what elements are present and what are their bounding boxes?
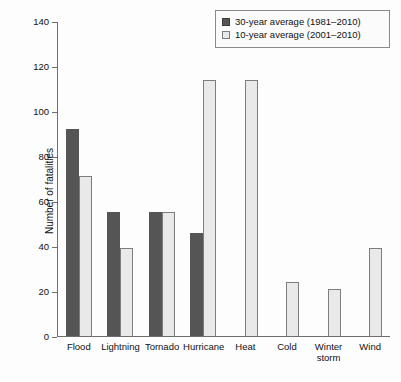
bar-light[interactable] (286, 282, 299, 336)
bar-group (141, 22, 183, 336)
bar-light[interactable] (203, 80, 216, 337)
bar-group (349, 22, 391, 336)
bar-group (224, 22, 266, 336)
bar-light[interactable] (328, 289, 341, 336)
bar-light[interactable] (369, 248, 382, 336)
bar-group (307, 22, 349, 336)
y-tick-mark (52, 337, 57, 338)
y-tick-mark (52, 67, 57, 68)
y-tick-mark (52, 112, 57, 113)
x-axis-label: Lightning (100, 341, 142, 363)
bar-dark[interactable] (66, 129, 79, 336)
x-axis-label: Winter storm (308, 341, 350, 363)
bar-dark[interactable] (190, 233, 203, 337)
bar-dark[interactable] (107, 212, 120, 336)
bar-light[interactable] (120, 248, 133, 336)
y-tick-label: 100 (33, 107, 49, 117)
y-tick-label: 0 (44, 332, 49, 342)
y-tick-mark (52, 157, 57, 158)
y-tick-label: 40 (38, 242, 49, 252)
bar-dark[interactable] (149, 212, 162, 336)
x-axis-label: Cold (266, 341, 308, 363)
y-tick-label: 60 (38, 197, 49, 207)
y-tick-mark (52, 22, 57, 23)
bar-light[interactable] (162, 212, 175, 336)
x-axis-label: Flood (58, 341, 100, 363)
bar-light[interactable] (245, 80, 258, 337)
y-tick-label: 80 (38, 152, 49, 162)
y-tick-mark (52, 247, 57, 248)
y-tick-mark (52, 202, 57, 203)
x-axis-label: Tornado (141, 341, 183, 363)
y-tick-label: 20 (38, 287, 49, 297)
x-axis-labels: FloodLightningTornadoHurricaneHeatColdWi… (58, 341, 391, 363)
fatalities-bar-chart: 30-year average (1981–2010) 10-year aver… (0, 0, 401, 382)
x-axis-label: Heat (225, 341, 267, 363)
y-tick-label: 120 (33, 62, 49, 72)
bar-group (58, 22, 100, 336)
y-tick-mark (52, 292, 57, 293)
y-tick-label: 140 (33, 17, 49, 27)
x-axis-line (57, 336, 390, 337)
x-axis-label: Hurricane (183, 341, 225, 363)
x-axis-label: Wind (349, 341, 391, 363)
bar-group (100, 22, 142, 336)
bar-group (266, 22, 308, 336)
bar-groups (58, 22, 390, 336)
bar-group (183, 22, 225, 336)
bar-light[interactable] (79, 176, 92, 336)
plot-area: 020406080100120140 (57, 22, 390, 337)
